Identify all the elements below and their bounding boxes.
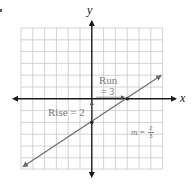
rise-label: Rise = 2 [48,107,85,118]
y-intercept-point [90,121,94,125]
x-intercept-point [125,97,129,101]
slope-figure: y x Run = 3 Rise = 2 m = 2 3 [0,0,193,185]
run-label-line1: Run [99,75,117,86]
slope-label: m = 2 3 [131,125,154,140]
y-axis-label: y [87,4,92,16]
graph-canvas [0,0,193,185]
x-axis-label: x [180,92,185,104]
run-label-line2: = 3 [101,87,114,97]
slope-variable: m [131,127,138,137]
slope-denominator: 3 [148,133,154,140]
slope-equals: = [140,127,145,137]
axes [13,21,176,177]
slope-fraction: 2 3 [148,125,154,140]
